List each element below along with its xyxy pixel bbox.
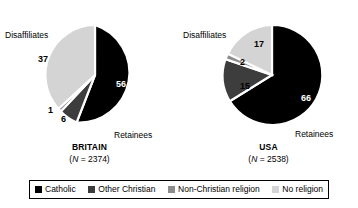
- pie-panel-britain: 56 6 1 37 Disaffiliates Retainees BRITAI…: [0, 8, 179, 168]
- slice-value-catholic: 66: [301, 94, 311, 103]
- panel-caption-n: (N = 2374): [0, 154, 179, 165]
- legend-item-catholic: Catholic: [35, 185, 76, 194]
- panel-caption-name: BRITAIN: [0, 142, 179, 153]
- annotation-disaffiliates: Disaffiliates: [5, 31, 48, 40]
- legend-label-no-religion: No religion: [282, 185, 323, 194]
- slice-value-other-christian: 15: [240, 82, 250, 91]
- legend-item-other-christian: Other Christian: [88, 185, 155, 194]
- pie-usa-svg: [179, 8, 358, 140]
- caption-n-value: = 2374): [78, 154, 109, 164]
- legend-label-other-christian: Other Christian: [98, 185, 155, 194]
- legend-item-non-christian: Non-Christian religion: [168, 185, 260, 194]
- legend-item-no-religion: No religion: [272, 185, 323, 194]
- panel-caption-name: USA: [179, 142, 358, 153]
- slice-value-no-religion: 37: [38, 55, 48, 64]
- pie-chart-figure: 56 6 1 37 Disaffiliates Retainees BRITAI…: [0, 0, 358, 208]
- pie-britain-svg: [0, 8, 179, 140]
- slice-value-other-christian: 6: [61, 115, 66, 124]
- pie-panel-usa: 66 15 2 17 Disaffiliates Retainees USA (…: [179, 8, 358, 168]
- legend-swatch-no-religion: [272, 186, 279, 193]
- annotation-retainees: Retainees: [114, 131, 152, 140]
- legend-label-non-christian: Non-Christian religion: [178, 185, 260, 194]
- slice-value-no-religion: 17: [254, 40, 264, 49]
- caption-n-value: = 2538): [257, 154, 288, 164]
- slice-value-catholic: 56: [116, 80, 126, 89]
- chart-legend: Catholic Other Christian Non-Christian r…: [29, 180, 329, 199]
- slice-value-non-christian: 2: [240, 58, 245, 67]
- legend-swatch-catholic: [35, 186, 42, 193]
- legend-label-catholic: Catholic: [45, 185, 76, 194]
- annotation-retainees: Retainees: [295, 130, 333, 139]
- annotation-disaffiliates: Disaffiliates: [183, 31, 226, 40]
- panel-caption-n: (N = 2538): [179, 154, 358, 165]
- legend-swatch-non-christian: [168, 186, 175, 193]
- slice-value-non-christian: 1: [48, 106, 53, 115]
- legend-swatch-other-christian: [88, 186, 95, 193]
